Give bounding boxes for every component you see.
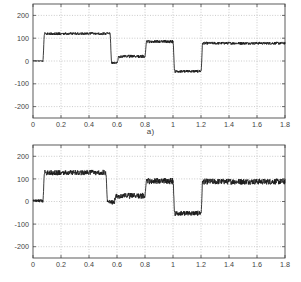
- x-tick-label: 1.2: [196, 260, 206, 269]
- x-tick-label: 0: [31, 260, 35, 269]
- x-tick-label: 0.2: [56, 260, 66, 269]
- x-tick-label: 0.8: [140, 260, 150, 269]
- y-tick-label: 200: [17, 152, 29, 161]
- chart-panel-a: 2001000-100-20000.20.40.60.811.21.41.61.…: [0, 0, 301, 141]
- x-tick-label: 1.6: [252, 260, 262, 269]
- plot-area-a: 2001000-100-20000.20.40.60.811.21.41.61.…: [0, 0, 301, 141]
- panel-a-caption: a): [0, 127, 301, 136]
- x-tick-label: 1.8: [280, 260, 290, 269]
- y-tick-label: -200: [15, 242, 29, 251]
- y-tick-label: 100: [17, 175, 29, 184]
- y-tick-label: 200: [17, 11, 29, 20]
- x-tick-label: 0.4: [84, 260, 94, 269]
- y-tick-label: 0: [25, 57, 29, 66]
- y-tick-label: 100: [17, 34, 29, 43]
- plot-area-b: 2001000-100-20000.20.40.60.811.21.41.61.…: [0, 140, 301, 282]
- y-tick-label: -200: [15, 102, 29, 111]
- chart-panel-b: 2001000-100-20000.20.40.60.811.21.41.61.…: [0, 140, 301, 282]
- y-tick-label: 0: [25, 197, 29, 206]
- x-tick-label: 0.6: [112, 260, 122, 269]
- x-tick-label: 1.4: [224, 260, 234, 269]
- x-tick-label: 1: [171, 260, 175, 269]
- y-tick-label: -100: [15, 220, 29, 229]
- figure-two-panel-step-response: 2001000-100-20000.20.40.60.811.21.41.61.…: [0, 0, 301, 282]
- y-tick-label: -100: [15, 79, 29, 88]
